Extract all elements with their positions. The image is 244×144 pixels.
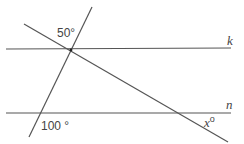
line-label-n: n xyxy=(226,98,233,111)
intersection-point xyxy=(70,49,73,52)
angle-label-100: 100 ° xyxy=(41,120,69,132)
angle-label-x: xo xyxy=(204,115,215,129)
angle-label-50: 50° xyxy=(57,27,75,39)
line-label-k: k xyxy=(227,34,233,47)
geometry-diagram: 50° 100 ° xo k n xyxy=(0,0,244,144)
degree-symbol: o xyxy=(210,114,215,124)
line-k xyxy=(6,48,231,49)
